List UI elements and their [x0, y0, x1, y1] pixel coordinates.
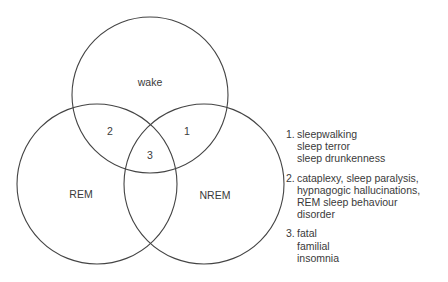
legend-line: hypnagogic hallucinations, [297, 184, 420, 196]
legend-line: disorder [297, 208, 420, 220]
legend-line: REM sleep behaviour [297, 196, 420, 208]
circle-nrem [124, 104, 284, 264]
legend-line: cataplexy, sleep paralysis, [297, 172, 420, 184]
legend-number: 3. [286, 227, 297, 264]
label-rem: REM [69, 188, 92, 200]
legend-line: fatal [297, 227, 339, 239]
label-wake: wake [138, 76, 163, 88]
legend-line: familial [297, 240, 339, 252]
legend-line: sleep drunkenness [297, 152, 385, 164]
legend: 1. sleepwalking sleep terror sleep drunk… [286, 128, 420, 271]
label-nrem: NREM [200, 189, 231, 201]
legend-item-1: 1. sleepwalking sleep terror sleep drunk… [286, 128, 420, 165]
legend-number: 2. [286, 172, 297, 221]
legend-line: sleep terror [297, 140, 385, 152]
legend-item-2: 2. cataplexy, sleep paralysis, hypnagogi… [286, 172, 420, 221]
legend-item-3: 3. fatal familial insomnia [286, 227, 420, 264]
legend-number: 1. [286, 128, 297, 165]
legend-line: sleepwalking [297, 128, 385, 140]
circle-rem [17, 104, 177, 264]
legend-line: insomnia [297, 252, 339, 264]
label-region-2: 2 [107, 125, 113, 137]
label-region-3: 3 [147, 149, 153, 161]
label-region-1: 1 [184, 125, 190, 137]
